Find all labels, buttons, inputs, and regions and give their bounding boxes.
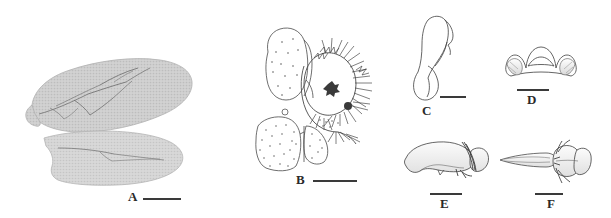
panel-c-gonostylus	[404, 12, 464, 104]
spiracle	[282, 109, 288, 115]
sensillum-patch	[323, 81, 340, 97]
panel-a-wings	[14, 30, 204, 190]
sclerite-stipple	[271, 38, 299, 96]
panel-d-scale-bar	[517, 89, 549, 91]
panel-a-label: A	[128, 190, 137, 203]
gonocoxite	[301, 53, 356, 144]
panel-e-aedeagus-lateral	[400, 136, 496, 190]
terminalia-drawing	[252, 22, 382, 172]
panel-f-label: F	[547, 197, 555, 210]
hind-wing	[44, 131, 183, 185]
aedeagal-spine	[500, 153, 556, 167]
panel-b-label: B	[296, 173, 305, 186]
right-lobe	[560, 59, 575, 75]
panel-f-aedeagus-dorsal	[498, 136, 594, 190]
panel-d-hypandrium	[500, 38, 582, 86]
sternite-stipple	[259, 124, 322, 166]
panel-f-scale-bar	[535, 193, 563, 195]
panel-d-label: D	[527, 93, 536, 106]
panel-c-label: C	[422, 104, 431, 117]
dark-patch	[344, 102, 352, 110]
panel-b-terminalia	[252, 22, 382, 172]
aedeagus-lateral-drawing	[400, 136, 496, 190]
setae	[310, 38, 372, 144]
panel-b-scale-bar	[313, 180, 357, 182]
panel-e-scale-bar	[430, 193, 462, 195]
gonostylus-drawing	[404, 12, 464, 104]
figure-plate: A	[0, 0, 611, 218]
panel-e-label: E	[440, 197, 449, 210]
base-lobe-right	[574, 148, 591, 174]
panel-c-scale-bar	[440, 96, 466, 98]
fore-wing	[26, 59, 192, 132]
left-lobe	[507, 59, 522, 75]
panel-a-scale-bar	[143, 198, 181, 200]
wings-drawing	[14, 30, 204, 190]
aedeagus-dorsal-drawing	[498, 136, 594, 190]
hypandrium-drawing	[500, 38, 582, 86]
